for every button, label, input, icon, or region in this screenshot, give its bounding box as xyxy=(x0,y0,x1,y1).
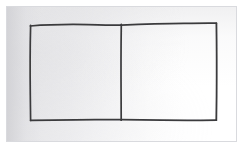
rect-bottom-edge-right xyxy=(121,120,216,121)
figure-canvas: Hand-drawn rectangle divided into two eq… xyxy=(0,0,245,151)
hand-drawn-figure xyxy=(0,0,245,151)
rect-top-edge-left xyxy=(30,24,121,26)
rect-bottom-edge-left xyxy=(31,120,122,121)
rect-top-edge-right xyxy=(121,23,216,25)
